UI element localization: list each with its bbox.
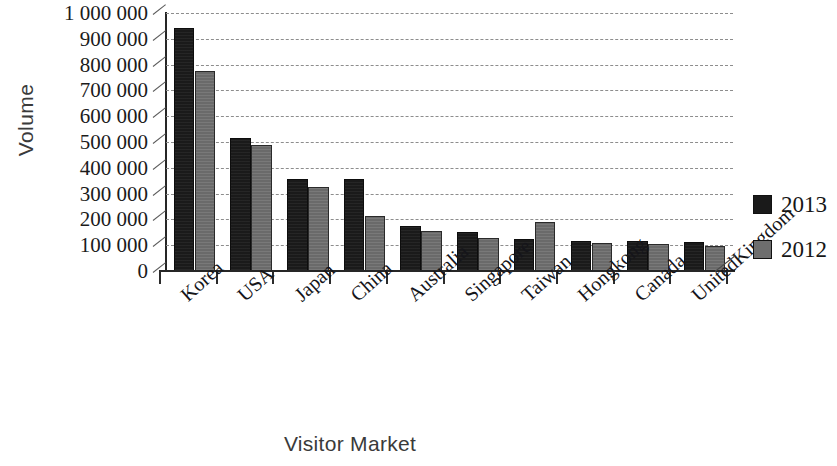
- x-axis-title: Visitor Market: [0, 432, 700, 456]
- bar-group: [230, 13, 272, 271]
- bar-group: [287, 13, 329, 271]
- legend-item[interactable]: 2012: [753, 238, 837, 261]
- bar[interactable]: [230, 138, 251, 271]
- y-axis-tick-label: 400 000: [0, 155, 148, 180]
- legend-color-swatch: [753, 240, 772, 259]
- bar[interactable]: [400, 226, 421, 271]
- bar-group: [684, 13, 726, 271]
- bar-group: [174, 13, 216, 271]
- plot-area: [166, 13, 733, 271]
- bar[interactable]: [287, 179, 308, 271]
- legend-color-swatch: [753, 195, 772, 214]
- x-axis-tick-mark: [159, 271, 161, 284]
- bar-group: [571, 13, 613, 271]
- legend-label: 2013: [781, 193, 827, 216]
- bar-group: [344, 13, 386, 271]
- y-axis-tick-label: 600 000: [0, 104, 148, 129]
- bar[interactable]: [251, 145, 272, 271]
- y-axis-tick-label: 100 000: [0, 233, 148, 258]
- bar-group: [514, 13, 556, 271]
- y-axis-tick-label: 1 000 000: [0, 1, 148, 26]
- y-axis-tick-label: 700 000: [0, 78, 148, 103]
- legend: 20132012: [753, 193, 837, 283]
- bar-chart: Volume 0100 000200 000300 000400 000500 …: [0, 0, 837, 466]
- bar-group: [457, 13, 499, 271]
- y-axis-tick-label: 500 000: [0, 130, 148, 155]
- bar[interactable]: [195, 71, 216, 271]
- y-axis-tick-label: 200 000: [0, 207, 148, 232]
- bar[interactable]: [174, 28, 195, 271]
- bar[interactable]: [308, 187, 329, 271]
- bar-group: [400, 13, 442, 271]
- y-axis-tick-labels: 0100 000200 000300 000400 000500 000600 …: [0, 0, 160, 290]
- y-axis-tick-label: 0: [0, 259, 148, 284]
- legend-item[interactable]: 2013: [753, 193, 837, 216]
- y-axis-tick-label: 900 000: [0, 26, 148, 51]
- y-axis-tick-label: 300 000: [0, 181, 148, 206]
- bar[interactable]: [344, 179, 365, 271]
- legend-label: 2012: [781, 238, 827, 261]
- y-axis-tick-label: 800 000: [0, 52, 148, 77]
- bar-group: [627, 13, 669, 271]
